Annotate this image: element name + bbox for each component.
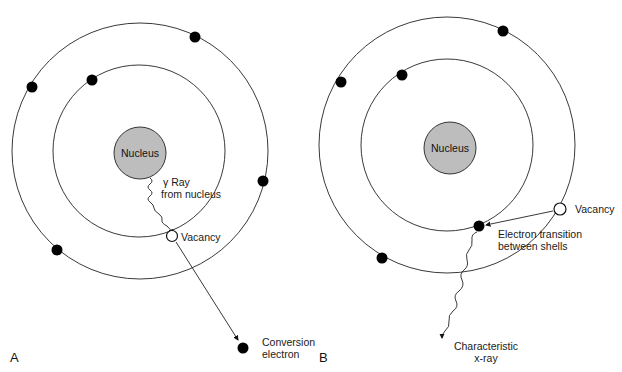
vacancy-a [167,231,178,242]
gamma-label-line1: γ Ray [163,176,191,188]
conversion-label-line2: electron [262,348,300,360]
conversion-label-line1: Conversion [262,336,315,348]
vacancy-b [554,203,566,215]
panel-b: Nucleus Vacancy Electron transition betw… [319,17,615,365]
xray-label-line2: x-ray [474,352,498,364]
conversion-path [176,242,238,340]
electron [27,82,38,93]
transition-arrow [486,211,553,225]
electron [336,77,347,88]
electron [397,70,408,81]
gamma-label-line2: from nucleus [161,188,221,200]
electron [258,176,269,187]
electron [190,32,201,43]
electron [498,26,509,37]
panel-a: Nucleus γ Ray from nucleus Vacancy Conve… [10,23,315,365]
transitioning-electron [474,221,485,232]
nucleus-label-b: Nucleus [431,142,469,154]
electron [52,245,63,256]
panel-label-b: B [319,350,328,365]
vacancy-label-a: Vacancy [181,231,221,243]
xray-label-line1: Characteristic [454,340,518,352]
conversion-electron [238,343,249,354]
transition-label-line1: Electron transition [498,228,582,240]
electron [87,75,98,86]
xray-wave [442,232,477,338]
nucleus-label-a: Nucleus [121,147,159,159]
transition-label-line2: between shells [498,240,567,252]
vacancy-label-b: Vacancy [575,203,615,215]
atom-diagram: Nucleus γ Ray from nucleus Vacancy Conve… [0,0,622,372]
electron [377,253,388,264]
panel-label-a: A [10,350,19,365]
